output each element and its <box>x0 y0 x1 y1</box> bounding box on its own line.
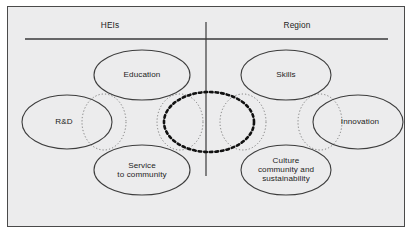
ellipse-rd <box>22 95 112 149</box>
figure-container: HEIs Region Education R&D Service to com… <box>0 0 413 235</box>
ellipse-service <box>94 145 190 195</box>
ellipse-innovation <box>313 95 403 149</box>
ellipse-engagement-core <box>164 92 254 152</box>
diagram-canvas <box>0 0 413 235</box>
ellipse-culture <box>241 145 331 195</box>
overlap-ellipse-region-right <box>298 94 342 150</box>
ellipse-skills <box>241 50 331 100</box>
ellipse-education <box>94 50 190 100</box>
overlap-ellipse-hei-left <box>82 94 126 150</box>
